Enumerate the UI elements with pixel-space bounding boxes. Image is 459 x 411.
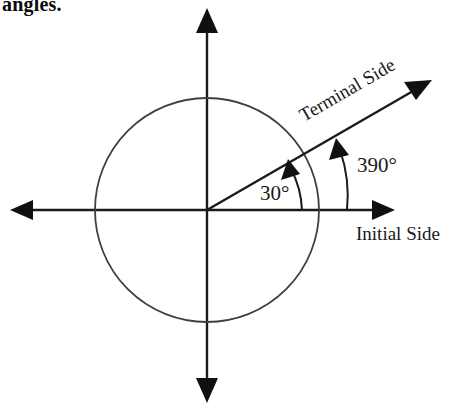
terminal-ray-arrow-icon: [404, 80, 432, 100]
x-axis-right-arrow-icon: [372, 200, 395, 220]
initial-side-label: Initial Side: [356, 223, 440, 244]
outer-angle-arc: [340, 150, 348, 210]
inner-angle-label: 30°: [260, 181, 289, 205]
figure-caption: angles.: [2, 0, 62, 16]
outer-arc-arrow-icon: [329, 138, 349, 160]
outer-angle-arc-group: [329, 138, 349, 210]
coterminal-angles-figure: angles.: [0, 0, 459, 411]
y-axis-bottom-arrow-icon: [196, 378, 218, 403]
terminal-side-label: Terminal Side: [296, 54, 399, 126]
x-axis-left-arrow-icon: [10, 200, 33, 220]
inner-arc-arrow-icon: [281, 159, 300, 180]
angle-diagram-svg: 30° 390° Terminal Side Initial Side: [0, 0, 459, 411]
outer-angle-label: 390°: [357, 153, 397, 177]
y-axis-top-arrow-icon: [196, 8, 218, 33]
axes-group: [10, 8, 395, 403]
